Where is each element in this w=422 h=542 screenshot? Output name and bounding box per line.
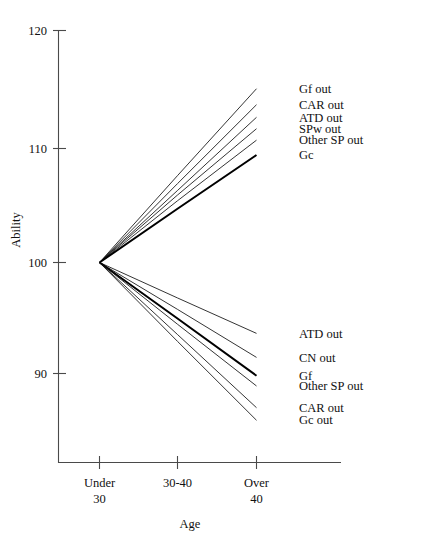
x-axis-tick-labels: Under 30 30-40 Over 40 — [84, 476, 270, 506]
y-tick-label-90: 90 — [35, 367, 48, 381]
x-tick-label-under-30-line2: 30 — [93, 492, 106, 506]
series-label-upper-4: Other SP out — [299, 133, 364, 147]
x-axis-title: Age — [180, 517, 201, 531]
x-tick-label-over-40-line1: Over — [244, 476, 270, 490]
series-label-lower-6: ATD out — [299, 327, 343, 341]
series-line-upper-1 — [100, 105, 257, 263]
x-tick-label-under-30-line1: Under — [84, 476, 116, 490]
series-line-lower-8 — [100, 263, 257, 376]
series-labels-group: Gf outCAR outATD outSPw outOther SP outG… — [299, 82, 364, 428]
series-line-upper-4 — [100, 140, 257, 262]
y-axis-tick-labels: 120 110 100 90 — [28, 24, 47, 381]
y-axis-ticks — [53, 31, 66, 374]
series-label-upper-5: Gc — [299, 148, 314, 162]
series-label-upper-0: Gf out — [299, 82, 332, 96]
series-label-lower-11: Gc out — [299, 413, 333, 427]
series-line-lower-11 — [100, 263, 257, 421]
x-tick-label-over-40-line2: 40 — [250, 492, 263, 506]
series-line-upper-0 — [100, 89, 257, 263]
series-line-upper-3 — [100, 129, 257, 263]
series-label-lower-9: Other SP out — [299, 379, 364, 393]
y-tick-label-120: 120 — [28, 24, 47, 38]
series-line-upper-5 — [100, 155, 257, 262]
series-line-lower-10 — [100, 263, 257, 408]
series-label-lower-7: CN out — [299, 351, 336, 365]
series-line-lower-9 — [100, 263, 257, 386]
series-line-upper-2 — [100, 117, 257, 262]
series-lines-group — [100, 89, 257, 421]
chart-figure: 120 110 100 90 Ability Under 30 30-40 Ov… — [0, 0, 422, 542]
y-axis-title: Ability — [9, 212, 23, 248]
y-tick-label-100: 100 — [28, 256, 47, 270]
x-tick-label-30-40-line1: 30-40 — [163, 476, 192, 490]
y-tick-label-110: 110 — [29, 142, 47, 156]
ability-by-age-line-chart: 120 110 100 90 Ability Under 30 30-40 Ov… — [0, 0, 422, 542]
series-line-lower-7 — [100, 263, 257, 358]
series-line-lower-6 — [100, 263, 257, 334]
